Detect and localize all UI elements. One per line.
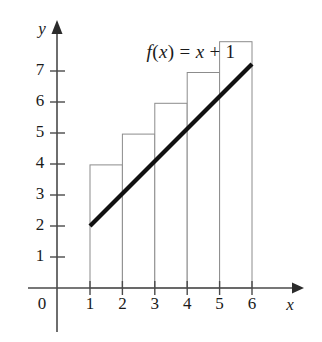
figure-canvas: 7 6 5 4 3 2 1 1 2 3 4 5 6 0 y x f(x)=x+1	[0, 0, 322, 342]
y-tick-label-6: 6	[36, 91, 45, 110]
function-label-constant: 1	[226, 41, 236, 62]
function-label-equals: =	[180, 41, 191, 62]
x-tick-label-6: 6	[248, 294, 257, 313]
y-tick-label-1: 1	[36, 246, 45, 265]
x-tick-label-1: 1	[86, 294, 95, 313]
x-axis-label: x	[285, 295, 294, 314]
function-label-term-x: x	[195, 41, 205, 62]
riemann-rect-2	[122, 134, 154, 288]
x-tick-label-4: 4	[183, 294, 192, 313]
function-label-plus: +	[209, 41, 220, 62]
riemann-sum-figure: 7 6 5 4 3 2 1 1 2 3 4 5 6 0 y x f(x)=x+1	[0, 0, 322, 342]
y-tick-label-3: 3	[36, 184, 45, 203]
y-tick-label-4: 4	[36, 153, 45, 172]
y-tick-label-2: 2	[36, 215, 45, 234]
y-axis-label: y	[36, 19, 46, 38]
function-label-open-paren: (	[152, 41, 159, 63]
function-label-close-paren: )	[168, 41, 175, 63]
riemann-rect-1	[90, 165, 122, 288]
x-tick-label-5: 5	[215, 294, 224, 313]
x-tick-label-3: 3	[151, 294, 160, 313]
y-tick-label-5: 5	[36, 122, 45, 141]
riemann-rect-4	[187, 73, 219, 289]
origin-label: 0	[38, 294, 47, 313]
function-label-arg: x	[158, 41, 168, 62]
y-tick-label-7: 7	[36, 60, 45, 79]
x-tick-label-2: 2	[118, 294, 127, 313]
